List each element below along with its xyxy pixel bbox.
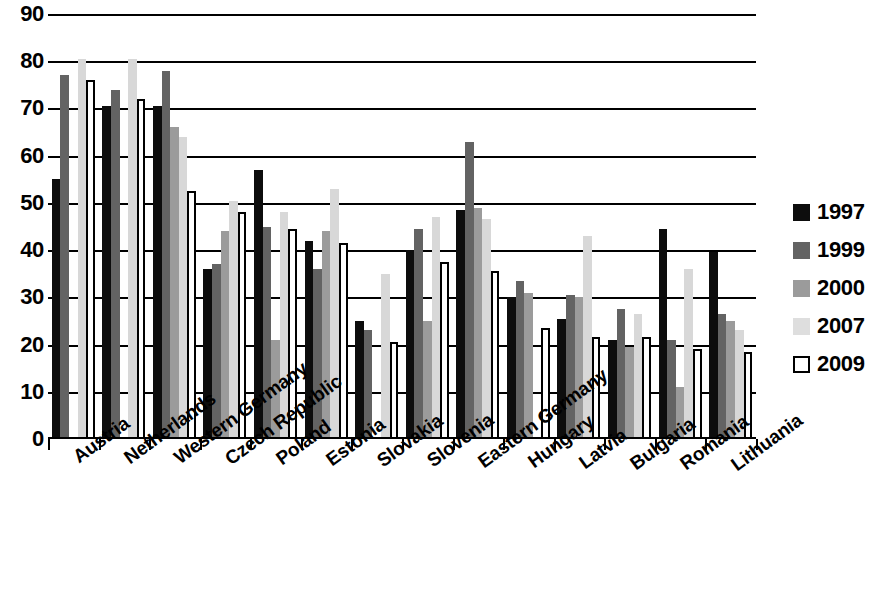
bar [709,252,718,439]
legend-label: 2007 [817,315,865,337]
bar [440,262,449,439]
bar [583,236,592,439]
bar-group [351,14,402,439]
bar [60,75,69,439]
bar [474,208,483,439]
legend-swatch-icon [793,280,810,297]
chart-legend: 19971999200020072009 [793,193,872,383]
bar [625,347,634,439]
bar [482,219,491,439]
bar [330,189,339,439]
legend-item: 2000 [793,269,872,307]
bar [608,340,617,439]
y-tick-label: 40 [2,239,44,261]
bar [617,309,626,439]
legend-label: 2009 [817,353,865,375]
bar-groups [48,14,756,439]
legend-item: 2007 [793,307,872,345]
bar-group [655,14,706,439]
bar [414,229,423,439]
bar [102,106,111,439]
legend-label: 1999 [817,239,865,261]
bar [432,217,441,439]
bar-group [48,14,99,439]
bar [566,295,575,439]
bar [557,319,566,439]
bar [659,229,668,439]
y-tick-label: 30 [2,286,44,308]
bar [86,80,95,439]
bar [390,342,399,439]
bar [78,59,87,439]
bar [153,106,162,439]
bar [170,127,179,439]
bar [162,71,171,439]
bar [406,250,415,439]
bar-group [200,14,251,439]
y-tick-label: 10 [2,381,44,403]
y-tick-label: 80 [2,50,44,72]
legend-item: 2009 [793,345,872,383]
bar-group [705,14,756,439]
y-tick-label: 0 [2,428,44,450]
bar [111,90,120,439]
bar [456,210,465,439]
bar-group [604,14,655,439]
legend-swatch-icon [793,356,810,373]
bar [381,274,390,439]
bar [128,59,137,439]
x-axis-labels: AustriaNetherlandsWestern GermanyCzech R… [0,448,800,578]
legend-label: 2000 [817,277,865,299]
bar [137,99,146,439]
bar-group [503,14,554,439]
bar [313,269,322,439]
bar [634,314,643,439]
bar-chart: 0102030405060708090 AustriaNetherlandsWe… [0,0,872,589]
bar-group [402,14,453,439]
plot-area [48,14,756,439]
legend-item: 1999 [793,231,872,269]
bar-group [99,14,150,439]
bar [516,281,525,439]
bar [465,142,474,440]
bar-group [453,14,504,439]
bar [322,231,331,439]
y-tick-label: 90 [2,3,44,25]
y-axis: 0102030405060708090 [0,0,44,439]
y-tick-label: 70 [2,97,44,119]
bar [212,264,221,439]
legend-swatch-icon [793,242,810,259]
bar [491,271,500,439]
legend-swatch-icon [793,318,810,335]
bar [52,179,61,439]
y-tick-label: 50 [2,192,44,214]
bar [339,243,348,439]
bar [355,321,364,439]
bar [179,137,188,439]
y-tick-label: 20 [2,334,44,356]
bar [507,297,516,439]
bar-group [149,14,200,439]
y-tick-label: 60 [2,145,44,167]
bar [642,337,651,439]
legend-swatch-icon [793,204,810,221]
legend-label: 1997 [817,201,865,223]
legend-item: 1997 [793,193,872,231]
